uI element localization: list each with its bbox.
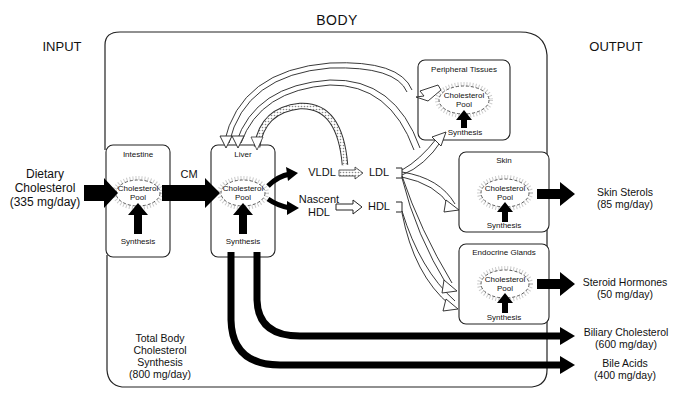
output-header: OUTPUT: [576, 40, 656, 55]
peripheral-title: Peripheral Tissues: [418, 65, 510, 74]
cm-label: CM: [174, 168, 204, 181]
peripheral-pool-label: Cholesterol Pool: [438, 91, 490, 109]
hdl-label: HDL: [362, 200, 396, 213]
endocrine-pool-label: Cholesterol Pool: [479, 275, 531, 293]
liver-synthesis-label: Synthesis: [211, 237, 275, 246]
ldl-label: LDL: [362, 166, 396, 179]
liver-pool-label: Cholesterol Pool: [217, 184, 269, 202]
total-synthesis-label: Total Body Cholesterol Synthesis (800 mg…: [118, 332, 202, 380]
endocrine-title: Endocrine Glands: [459, 248, 549, 257]
intestine-synthesis-label: Synthesis: [106, 237, 170, 246]
intestine-title: Intestine: [106, 150, 170, 159]
endocrine-synthesis-label: Synthesis: [459, 313, 549, 322]
input-header: INPUT: [22, 40, 102, 55]
skin-sterols-label: Skin Sterols (85 mg/day): [575, 186, 675, 210]
ldl-bracket: [396, 168, 402, 178]
body-header: BODY: [307, 12, 367, 28]
liver-title: Liver: [211, 150, 275, 159]
nascent-hdl-label: Nascent HDL: [298, 193, 340, 218]
ldl-distribution: [402, 138, 455, 305]
steroid-hormones-label: Steroid Hormones (50 mg/day): [575, 276, 675, 300]
vldl-label: VLDL: [305, 166, 339, 179]
intestine-pool-label: Cholesterol Pool: [112, 184, 164, 202]
peripheral-synthesis-label: Synthesis: [430, 128, 500, 137]
skin-title: Skin: [459, 156, 549, 165]
biliary-cholesterol-label: Biliary Cholesterol (600 mg/day): [575, 326, 677, 350]
vldl-ldl-arrow: [339, 167, 363, 179]
hdl-bracket: [396, 202, 402, 212]
bile-acids-label: Bile Acids (400 mg/day): [575, 357, 675, 381]
skin-synthesis-label: Synthesis: [459, 221, 549, 230]
dietary-cholesterol-label: Dietary Cholesterol (335 mg/day): [0, 168, 90, 209]
skin-pool-label: Cholesterol Pool: [479, 184, 531, 202]
